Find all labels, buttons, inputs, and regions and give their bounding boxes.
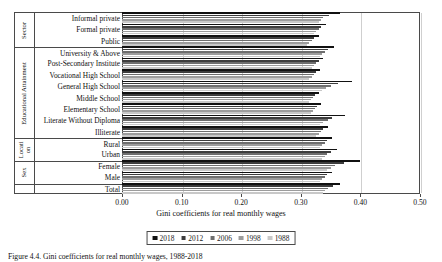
bar-rows <box>122 12 420 194</box>
category-label: General High School <box>35 81 122 92</box>
category-label: Total <box>35 184 122 195</box>
category-label: Male <box>35 172 122 183</box>
group-label: Sector <box>15 13 34 47</box>
legend-item: 1998 <box>239 234 261 243</box>
bar-row <box>122 114 420 125</box>
x-tick-label: 0.00 <box>115 198 128 207</box>
bar-row <box>122 46 420 57</box>
legend-swatch <box>210 236 215 241</box>
x-tick <box>182 194 183 197</box>
bar-row <box>122 126 420 137</box>
category-label: Rural <box>35 138 122 149</box>
legend-swatch <box>153 236 158 241</box>
legend-swatch <box>239 236 244 241</box>
bar-row <box>122 171 420 182</box>
bar-row <box>122 23 420 34</box>
category-label: Illiterate <box>35 127 122 138</box>
group-axis-column: SectorEducational AttainmentLocati onSex <box>14 12 34 194</box>
x-tick <box>122 194 123 197</box>
legend-item: 2018 <box>153 234 175 243</box>
bar-row <box>122 183 420 194</box>
legend-label: 2012 <box>188 234 203 243</box>
category-label: Public <box>35 36 122 47</box>
group-label: Locati on <box>15 138 34 161</box>
group-label: Sex <box>15 161 34 184</box>
x-tick-label: 0.20 <box>235 198 248 207</box>
category-label: Informal private <box>35 13 122 24</box>
x-tick <box>241 194 242 197</box>
category-axis-column: Informal privateFormal privatePublicUniv… <box>34 12 122 194</box>
category-label: Middle School <box>35 93 122 104</box>
category-label: Urban <box>35 150 122 161</box>
category-label: University & Above <box>35 47 122 58</box>
category-label: Literate Without Diploma <box>35 115 122 126</box>
category-label: Formal private <box>35 24 122 35</box>
category-label: Female <box>35 161 122 172</box>
x-tick-label: 0.40 <box>354 198 367 207</box>
bar-row <box>122 149 420 160</box>
x-tick <box>360 194 361 197</box>
group-label-text: Educational Attainment <box>21 62 28 124</box>
legend: 20182012200619981988 <box>147 231 296 245</box>
legend-label: 2006 <box>217 234 232 243</box>
category-label: Post-Secondary Institute <box>35 59 122 70</box>
x-tick-label: 0.50 <box>413 198 426 207</box>
figure-container: SectorEducational AttainmentLocati onSex… <box>0 0 442 262</box>
group-label: Educational Attainment <box>15 47 34 138</box>
bar-row <box>122 137 420 148</box>
x-tick <box>420 194 421 197</box>
bar-row <box>122 12 420 23</box>
group-label-text: Sex <box>21 168 28 178</box>
category-label: Vocational High School <box>35 70 122 81</box>
legend-label: 1998 <box>246 234 261 243</box>
legend-label: 1988 <box>275 234 290 243</box>
bar-row <box>122 80 420 91</box>
x-tick-label: 0.10 <box>175 198 188 207</box>
bar-row <box>122 35 420 46</box>
legend-item: 1988 <box>268 234 290 243</box>
x-axis: 0.000.100.200.300.400.50 <box>122 194 420 199</box>
bar-row <box>122 103 420 114</box>
legend-swatch <box>268 236 273 241</box>
x-tick <box>301 194 302 197</box>
bar-row <box>122 92 420 103</box>
legend-item: 2006 <box>210 234 232 243</box>
legend-label: 2018 <box>160 234 175 243</box>
x-axis-label: Gini coefficients for real monthly wages <box>0 209 442 218</box>
x-tick-label: 0.30 <box>294 198 307 207</box>
gridline <box>421 13 422 193</box>
group-label-text: Locati on <box>18 141 32 160</box>
category-label: Elementary School <box>35 104 122 115</box>
bar-row <box>122 160 420 171</box>
group-label-text: Sector <box>21 22 28 39</box>
bar-row <box>122 69 420 80</box>
bar-row <box>122 58 420 69</box>
group-label <box>15 184 34 195</box>
legend-item: 2012 <box>181 234 203 243</box>
legend-swatch <box>181 236 186 241</box>
figure-caption: Figure 4.4. Gini coefficients for real m… <box>8 252 434 262</box>
